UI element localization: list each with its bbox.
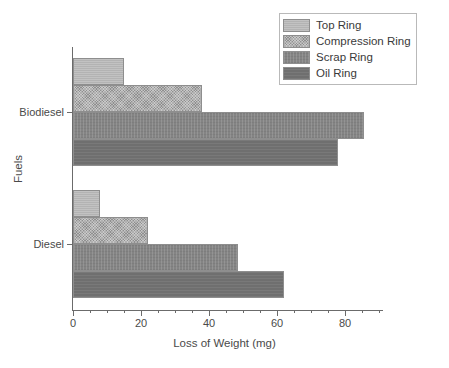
x-tick-minor (243, 310, 244, 313)
x-tick-major (277, 310, 278, 316)
x-tick-minor (294, 310, 295, 313)
y-axis-title: Fuels (12, 129, 24, 209)
y-tick-label-diesel: Diesel (33, 238, 64, 250)
bar-chart: 020406080 BiodieselDiesel Loss of Weight… (0, 0, 449, 368)
x-axis-title: Loss of Weight (mg) (0, 337, 449, 349)
legend-item-top-ring: Top Ring (283, 17, 411, 33)
x-tick-minor (226, 310, 227, 313)
x-tick-minor (124, 310, 125, 313)
bar-diesel-compression-ring (73, 217, 148, 244)
x-tick-minor (192, 310, 193, 313)
legend-label-scrap-ring: Scrap Ring (316, 51, 373, 63)
legend-item-scrap-ring: Scrap Ring (283, 49, 411, 65)
legend: Top RingCompression RingScrap RingOil Ri… (279, 13, 417, 85)
x-tick-major (141, 310, 142, 316)
x-tick-label: 20 (135, 317, 147, 329)
bar-biodiesel-oil-ring (73, 139, 338, 166)
y-tick-mark (67, 112, 73, 113)
legend-swatch-compression-ring (283, 35, 310, 48)
legend-label-compression-ring: Compression Ring (316, 35, 411, 47)
bar-biodiesel-top-ring (73, 58, 124, 85)
x-tick-minor (311, 310, 312, 313)
legend-swatch-oil-ring (283, 67, 310, 80)
x-tick-minor (362, 310, 363, 313)
legend-swatch-scrap-ring (283, 51, 310, 64)
x-tick-minor (175, 310, 176, 313)
x-tick-major (209, 310, 210, 316)
legend-item-oil-ring: Oil Ring (283, 65, 411, 81)
x-tick-label: 80 (339, 317, 351, 329)
legend-label-top-ring: Top Ring (316, 19, 361, 31)
bar-diesel-oil-ring (73, 271, 284, 298)
x-tick-label: 60 (271, 317, 283, 329)
legend-item-compression-ring: Compression Ring (283, 33, 411, 49)
x-tick-minor (90, 310, 91, 313)
bar-biodiesel-compression-ring (73, 85, 202, 112)
x-tick-major (73, 310, 74, 316)
bar-diesel-top-ring (73, 190, 100, 217)
y-tick-label-biodiesel: Biodiesel (19, 106, 64, 118)
legend-label-oil-ring: Oil Ring (316, 67, 357, 79)
x-tick-major (345, 310, 346, 316)
x-tick-minor (328, 310, 329, 313)
bar-biodiesel-scrap-ring (73, 112, 364, 139)
x-tick-minor (260, 310, 261, 313)
y-tick-mark (67, 244, 73, 245)
legend-swatch-top-ring (283, 19, 310, 32)
x-tick-minor (107, 310, 108, 313)
x-axis-line (72, 310, 383, 311)
x-tick-label: 40 (203, 317, 215, 329)
x-tick-minor (379, 310, 380, 313)
bar-diesel-scrap-ring (73, 244, 238, 271)
x-tick-minor (158, 310, 159, 313)
x-tick-label: 0 (70, 317, 76, 329)
